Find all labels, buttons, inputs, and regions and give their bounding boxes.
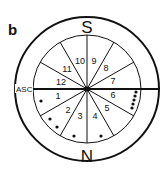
house-number-7: 7 <box>110 76 115 86</box>
house-number-12: 12 <box>56 77 66 87</box>
panel-label: b <box>8 21 17 38</box>
data-dot <box>131 102 134 105</box>
data-dot <box>132 98 135 101</box>
house-number-3: 3 <box>77 111 82 121</box>
house-number-2: 2 <box>65 105 70 115</box>
house-number-8: 8 <box>103 63 108 73</box>
house-number-5: 5 <box>104 103 109 113</box>
house-number-6: 6 <box>110 90 115 100</box>
center-point <box>85 87 90 92</box>
data-dot <box>48 117 51 120</box>
data-dot <box>72 134 75 137</box>
ascendant-label: ASC <box>16 85 33 94</box>
data-dot <box>39 99 42 102</box>
north-label: N <box>81 147 93 166</box>
house-wheel-diagram: 123456789101112 b S N ASC <box>0 0 166 172</box>
house-number-10: 10 <box>75 56 85 66</box>
south-label: S <box>81 18 92 37</box>
house-number-4: 4 <box>92 111 97 121</box>
house-number-9: 9 <box>91 56 96 66</box>
data-dot <box>130 106 133 109</box>
data-dot <box>55 125 58 128</box>
data-dot <box>99 134 102 137</box>
data-dot <box>133 94 136 97</box>
data-dot <box>134 90 137 93</box>
house-number-11: 11 <box>62 64 71 74</box>
house-number-1: 1 <box>55 91 60 101</box>
